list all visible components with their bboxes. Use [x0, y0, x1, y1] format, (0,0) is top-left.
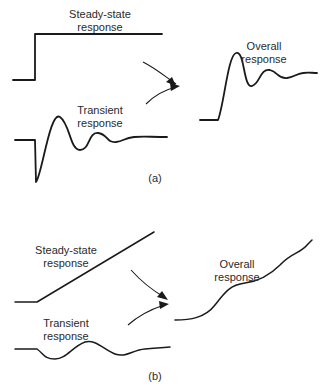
label-line: Transient: [77, 104, 122, 117]
label-line: Steady-state: [35, 244, 97, 257]
overall-label-a: Overall response: [241, 40, 286, 66]
label-line: Transient: [43, 317, 88, 330]
label-line: Overall: [214, 258, 259, 271]
steady-state-label-b: Steady-state response: [35, 244, 97, 270]
label-line: response: [214, 271, 259, 284]
arrowhead-icon: [157, 291, 168, 300]
transient-label-a: Transient response: [77, 104, 122, 130]
arrowhead-icon: [159, 301, 169, 309]
overall-label-b: Overall response: [214, 258, 259, 284]
label-line: response: [35, 257, 97, 270]
label-line: response: [77, 117, 122, 130]
label-line: response: [241, 53, 286, 66]
transient-wave-curve: [15, 341, 170, 359]
transient-label-b: Transient response: [43, 317, 88, 343]
arrow-steady-to-overall-icon: [131, 270, 164, 297]
arrow-transient-to-overall-icon: [128, 305, 164, 325]
label-line: Steady-state: [69, 8, 131, 21]
steady-state-label-a: Steady-state response: [69, 8, 131, 34]
caption-b: (b): [148, 370, 161, 383]
label-line: Overall: [241, 40, 286, 53]
caption-a: (a): [148, 172, 161, 185]
label-line: response: [43, 330, 88, 343]
label-line: response: [69, 21, 131, 34]
steady-state-step-curve: [13, 34, 162, 80]
